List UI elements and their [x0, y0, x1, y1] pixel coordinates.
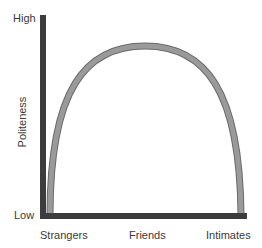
x-axis [40, 213, 247, 219]
x-tick-intimates: Intimates [206, 229, 251, 241]
politeness-curve [50, 46, 241, 215]
x-tick-strangers: Strangers [40, 229, 88, 241]
politeness-chart [0, 0, 262, 248]
politeness-curve-edge [50, 46, 241, 215]
y-tick-high: High [13, 12, 36, 24]
x-tick-friends: Friends [129, 229, 166, 241]
y-axis-label: Politeness [16, 97, 28, 148]
y-axis [40, 15, 46, 219]
y-tick-low: Low [14, 209, 34, 221]
